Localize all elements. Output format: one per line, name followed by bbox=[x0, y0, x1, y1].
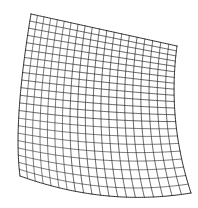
figure-stage: Curved wireframe mesh surface Saddle-sha… bbox=[0, 0, 198, 208]
wireframe-mesh-surface bbox=[0, 0, 198, 208]
